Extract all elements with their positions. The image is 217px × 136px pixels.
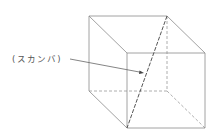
space-diagonal — [127, 16, 167, 128]
edge-top-left-depth — [89, 16, 127, 53]
edge-top-right-depth — [167, 16, 205, 53]
diagonal-label: (スカンバ) — [12, 53, 62, 65]
leader-line — [70, 59, 142, 73]
edge-bottom-left-depth — [89, 91, 127, 128]
cube-diagram: (スカンバ) — [0, 0, 217, 136]
edge-bottom-right-depth-hidden — [167, 91, 205, 128]
arrowhead-icon — [139, 71, 144, 74]
cube-drawing — [0, 0, 217, 136]
